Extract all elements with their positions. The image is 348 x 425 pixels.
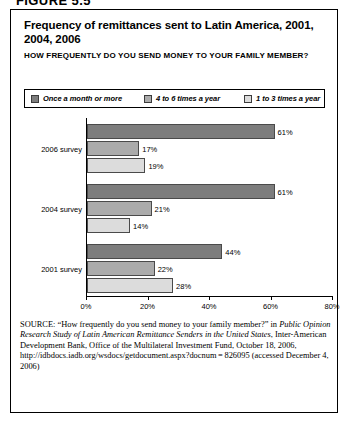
legend-item-once-a-month-or-more: Once a month or more [31,94,122,103]
bar [87,184,275,199]
x-axis-tick-label: 0% [81,302,92,311]
bar-value-label: 17% [142,145,157,154]
x-axis-tick-label: 60% [263,302,278,311]
bar-value-label: 22% [158,265,173,274]
x-axis-tick [271,296,272,300]
legend-item-label: Once a month or more [43,94,122,103]
bar-value-label: 44% [225,248,240,257]
bar-value-label: 61% [278,188,293,197]
figure-number-label: FIGURE 5.5 [16,0,91,8]
source-line-1: : “How frequently do you send money to y… [53,320,279,329]
bar [87,124,275,139]
bar [87,218,130,233]
bar-value-label: 19% [148,162,163,171]
bar-value-label: 28% [176,282,191,291]
legend-item-1-to-3-times-a-year: 1 to 3 times a year [244,94,320,103]
legend-item-4-to-6-times-a-year: 4 to 6 times a year [144,94,220,103]
bar [87,261,155,276]
chart-legend: Once a month or more 4 to 6 times a year… [24,89,325,108]
x-axis-tick-label: 20% [140,302,155,311]
figure-panel: Frequency of remittances sent to Latin A… [10,9,338,413]
chart-title: Frequency of remittances sent to Latin A… [24,18,314,46]
x-axis-tick-label: 80% [324,302,339,311]
x-axis-tick [332,296,333,300]
group-category-label: 2004 survey [24,205,82,214]
source-note: SOURCE: “How frequently do you send mone… [20,320,332,372]
source-prefix: SOURCE [20,320,53,329]
bar [87,244,222,259]
legend-swatch-icon [144,95,152,103]
bar [87,158,145,173]
bar-chart-plot-area: 0%20%40%60%80% 2006 survey61%17%19%2004 … [24,114,325,304]
x-axis-tick-label: 40% [201,302,216,311]
bar-value-label: 61% [278,128,293,137]
bar-value-label: 21% [155,205,170,214]
group-category-label: 2001 survey [24,265,82,274]
group-category-label: 2006 survey [24,145,82,154]
x-axis-tick [209,296,210,300]
x-axis-tick [148,296,149,300]
bar-value-label: 14% [133,222,148,231]
x-axis-tick [86,296,87,300]
legend-swatch-icon [31,95,39,103]
legend-item-label: 1 to 3 times a year [256,94,320,103]
bar [87,278,173,293]
chart-subtitle: HOW FREQUENTLY DO YOU SEND MONEY TO YOUR… [24,51,324,60]
bar [87,141,139,156]
legend-item-label: 4 to 6 times a year [156,94,220,103]
legend-swatch-icon [244,95,252,103]
bar [87,201,152,216]
